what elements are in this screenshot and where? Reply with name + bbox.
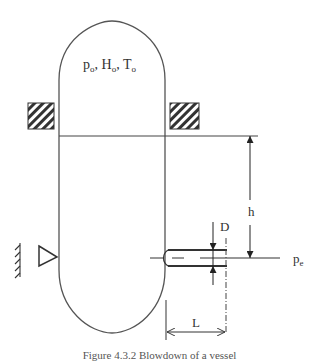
right-support-hatch [170, 103, 199, 129]
figure-caption: Figure 4.3.2 Blowdown of a vessel [0, 349, 319, 361]
ground-wall-icon [15, 243, 20, 278]
diameter-label: D [220, 220, 229, 233]
left-support-hatch [28, 103, 54, 129]
exit-pressure-label: pe [293, 252, 304, 265]
height-label: h [248, 205, 255, 218]
length-label: L [192, 316, 200, 329]
vessel-state-label: po, Ho, To [83, 58, 136, 72]
nozzle-pipe [150, 250, 280, 266]
triangle-support-icon [39, 246, 57, 266]
